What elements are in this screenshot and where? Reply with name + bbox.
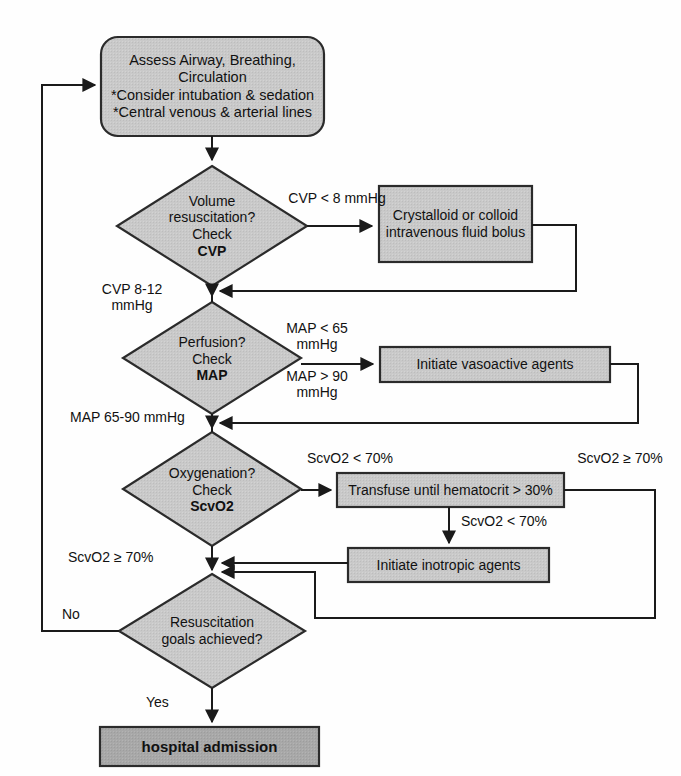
edge-label-cvp-target: CVP 8-12 mmHg [86, 281, 178, 313]
node-shape-assess [101, 37, 324, 136]
edge-label-scvo2-high-left: ScvO2 ≥ 70% [68, 549, 198, 565]
edge-label-scvo2-low: ScvO2 < 70% [285, 450, 415, 466]
edge-label-scvo2-low-transfuse: ScvO2 < 70% [461, 513, 591, 529]
node-shape-inotropic [348, 548, 549, 582]
edge-label-map-high: MAP > 90 mmHg [272, 368, 362, 400]
edge-label-cvp-low: CVP < 8 mmHg [262, 190, 412, 206]
edge-label-map-target: MAP 65-90 mmHg [70, 409, 220, 425]
node-shape-vasoactive [380, 347, 610, 382]
node-shape-admission [100, 727, 319, 766]
edge-label-map-low: MAP < 65 mmHg [272, 320, 362, 352]
node-shape-transfuse [337, 473, 564, 507]
node-shape-oxygenation [123, 432, 301, 546]
flowchart-canvas: Assess Airway, Breathing, Circulation *C… [0, 0, 681, 776]
node-shape-goals [119, 574, 305, 688]
edge-label-yes: Yes [146, 694, 196, 710]
node-shape-volume [117, 166, 307, 286]
edge-label-no: No [62, 606, 112, 622]
edge-label-scvo2-high-right: ScvO2 ≥ 70% [560, 450, 680, 466]
